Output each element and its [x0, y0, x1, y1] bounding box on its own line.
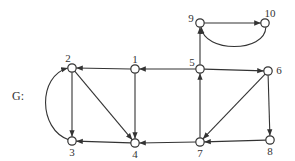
- edge-1-to-2: [76, 68, 131, 69]
- node-10: [261, 19, 269, 27]
- node-label-8: 8: [267, 145, 273, 157]
- edge-6-to-8: [268, 75, 270, 136]
- node-label-2: 2: [65, 52, 71, 64]
- node-4: [131, 139, 139, 147]
- node-8: [266, 136, 274, 144]
- node-label-6: 6: [276, 64, 282, 76]
- graph-name-label: G:: [12, 89, 24, 103]
- edge-2-to-4: [75, 71, 133, 140]
- edge-3-to-2: [46, 68, 69, 140]
- node-label-4: 4: [132, 148, 138, 160]
- edge-4-to-3: [76, 141, 131, 143]
- node-3: [68, 137, 76, 145]
- directed-graph-g: G: 12345678910: [0, 0, 295, 161]
- edge-10-to-9: [201, 27, 266, 46]
- edge-5-to-6: [204, 69, 264, 71]
- node-label-1: 1: [132, 53, 138, 65]
- node-7: [196, 138, 204, 146]
- node-label-9: 9: [188, 12, 194, 24]
- node-5: [196, 65, 204, 73]
- node-label-5: 5: [189, 56, 195, 68]
- node-label-7: 7: [197, 147, 203, 159]
- node-6: [264, 67, 272, 75]
- node-label-10: 10: [265, 7, 277, 19]
- edge-7-to-4: [139, 142, 196, 143]
- node-label-3: 3: [69, 146, 75, 158]
- edges-group: [46, 23, 270, 143]
- node-1: [131, 65, 139, 73]
- edge-8-to-7: [204, 140, 266, 142]
- node-2: [68, 64, 76, 72]
- node-9: [196, 19, 204, 27]
- edge-6-to-7: [203, 74, 265, 139]
- nodes-group: 12345678910: [65, 7, 282, 160]
